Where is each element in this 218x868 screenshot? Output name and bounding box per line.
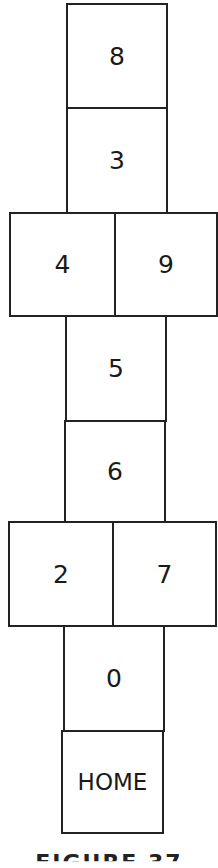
square-label: 3 xyxy=(109,146,125,175)
square-label: 7 xyxy=(157,560,173,589)
square-label: 9 xyxy=(158,250,174,279)
square-label: 4 xyxy=(55,250,71,279)
square-label: 5 xyxy=(108,354,124,383)
square-label: 0 xyxy=(106,664,122,693)
square-home: HOME xyxy=(61,730,164,834)
figure-caption: FIGURE 37 xyxy=(0,850,218,868)
square-0: 0 xyxy=(63,625,165,732)
square-label: 2 xyxy=(53,560,69,589)
square-5: 5 xyxy=(65,315,167,422)
square-label: 6 xyxy=(107,457,123,486)
square-2: 2 xyxy=(8,521,114,627)
square-3: 3 xyxy=(66,107,168,214)
square-7: 7 xyxy=(112,521,217,627)
square-6: 6 xyxy=(64,420,166,523)
square-4: 4 xyxy=(9,212,116,317)
square-label: 8 xyxy=(109,42,125,71)
square-label: HOME xyxy=(78,769,148,795)
square-9: 9 xyxy=(114,212,218,317)
square-8: 8 xyxy=(66,3,168,109)
